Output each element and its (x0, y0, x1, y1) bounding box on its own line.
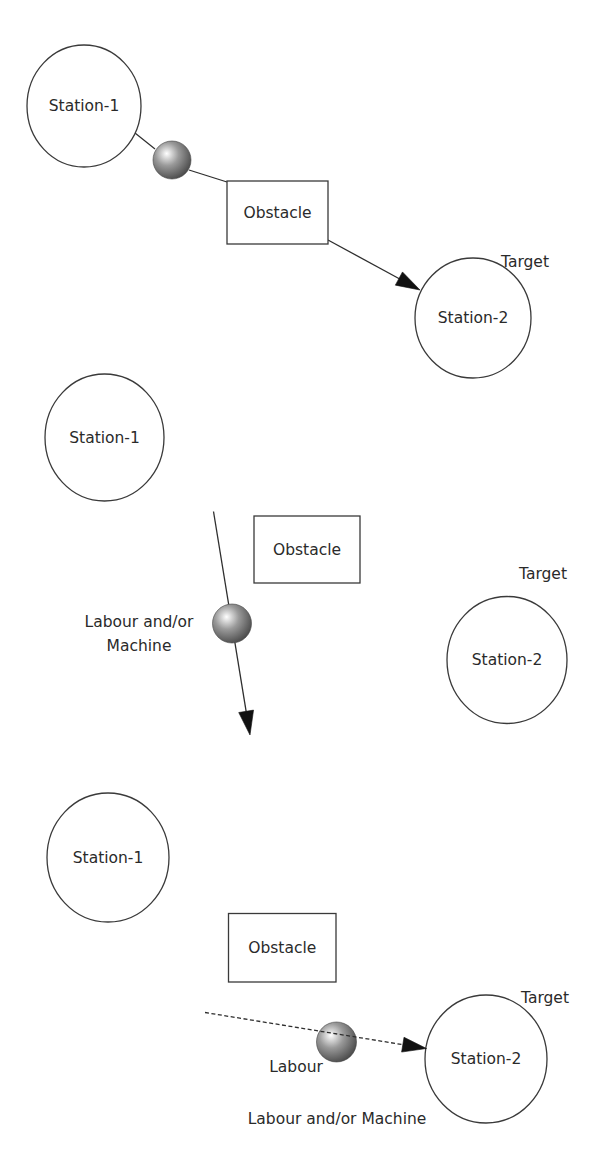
agent-label-line-2: Machine (107, 637, 172, 655)
arrowhead-icon (239, 710, 254, 735)
agent-ball-icon (317, 1022, 357, 1062)
target-label: Target (520, 989, 569, 1007)
station-2-label: Station-2 (451, 1050, 522, 1068)
panel-2: Station-1 Station-2 Obstacle Target Labo… (45, 374, 567, 735)
agent-caption: Labour and/or Machine (248, 1110, 427, 1128)
edge-agent-to-obstacle (189, 170, 227, 182)
station-2-label: Station-2 (472, 651, 543, 669)
agent-ball-icon (153, 141, 191, 179)
agent-ball-icon (213, 604, 252, 643)
station-1-label: Station-1 (69, 429, 140, 447)
obstacle-label: Obstacle (248, 939, 316, 957)
panel-3: Station-1 Station-2 Obstacle Target Labo… (47, 793, 569, 1128)
material-flow-diagram: Station-1 Station-2 Obstacle Target Stat… (0, 0, 609, 1165)
station-2-label: Station-2 (438, 309, 509, 327)
agent-label-line-1: Labour and/or (85, 613, 194, 631)
arrowhead-icon (395, 272, 420, 290)
edge-obstacle-to-station2-arrow (328, 240, 401, 279)
station-1-label: Station-1 (49, 97, 120, 115)
obstacle-label: Obstacle (273, 541, 341, 559)
edge-dashed-path-arrow (205, 1013, 405, 1045)
target-label: Target (518, 565, 567, 583)
target-label: Target (500, 253, 549, 271)
panel-1: Station-1 Station-2 Obstacle Target (27, 45, 549, 378)
agent-label: Labour (269, 1058, 323, 1076)
obstacle-label: Obstacle (243, 204, 311, 222)
arrowhead-icon (402, 1037, 427, 1052)
station-1-label: Station-1 (73, 849, 144, 867)
edge-station1-to-agent (135, 133, 155, 149)
